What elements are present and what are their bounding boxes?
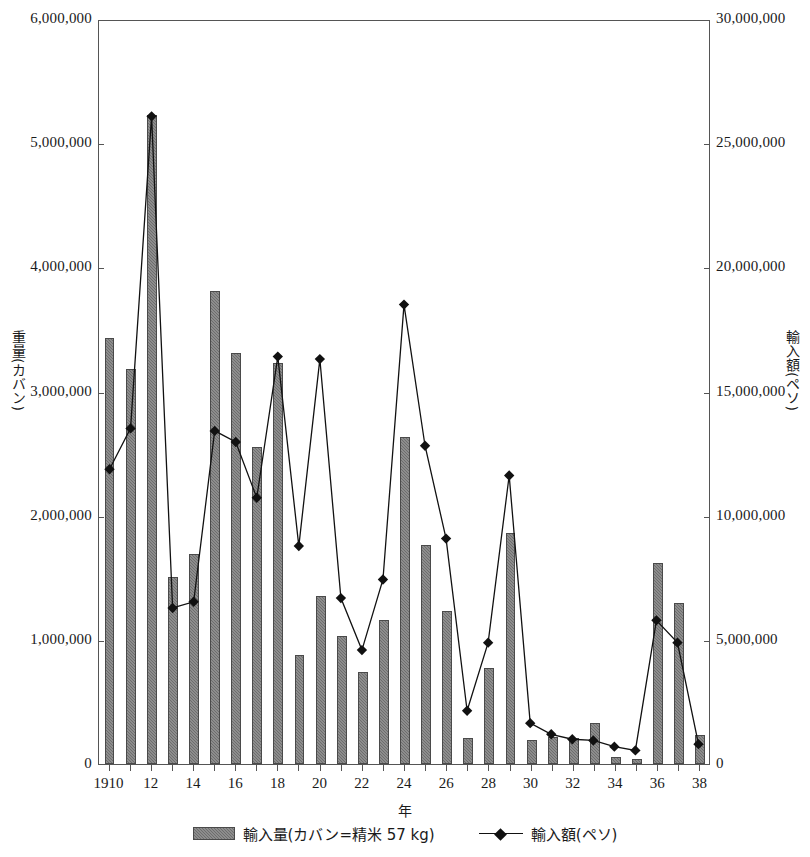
y-axis-tickmark [704,517,710,518]
x-axis-tickmark [531,765,532,771]
marker-15 [210,426,220,436]
y-axis-left-tick-label: 0 [84,755,92,772]
x-axis-tickmark [636,765,637,771]
plot-area [98,20,710,765]
marker-16 [231,437,241,447]
x-axis-tick-label: 16 [228,775,243,792]
y-axis-right-tick-label: 25,000,000 [716,134,786,151]
y-axis-left-tick-label: 1,000,000 [30,631,92,648]
legend-item-import-value: 輸入額(ペソ) [479,823,618,844]
import-value-line [110,116,699,750]
x-axis-tickmark [657,765,658,771]
x-axis-tickmark [277,765,278,771]
y-axis-tickmark [98,144,104,145]
line-series [99,21,709,764]
x-axis-tickmark [235,765,236,771]
y-axis-left-tick-label: 6,000,000 [30,10,92,27]
marker-32 [567,734,577,744]
y-axis-tickmark [704,268,710,269]
marker-35 [630,745,640,755]
x-axis-tickmark [699,765,700,771]
x-axis-tickmark [488,765,489,771]
x-axis-tick-label: 22 [354,775,369,792]
y-axis-right-tick-label: 20,000,000 [716,258,786,275]
marker-33 [588,735,598,745]
x-axis-tickmark [594,765,595,771]
x-axis-tickmark [615,765,616,771]
legend-label-import-volume: 輸入量(カバン=精米 57 kg) [243,823,435,844]
marker-22 [357,645,367,655]
y-axis-left-tick-label: 4,000,000 [30,258,92,275]
legend-label-import-value: 輸入額(ペソ) [531,823,618,844]
marker-18 [273,351,283,361]
y-axis-right-tick-label: 5,000,000 [716,631,778,648]
marker-12 [146,111,156,121]
x-axis-tickmark [151,765,152,771]
chart-legend: 輸入量(カバン=精米 57 kg) 輸入額(ペソ) [0,823,810,844]
x-axis-tickmark [362,765,363,771]
x-axis-tickmark [298,765,299,771]
x-axis-tick-label: 34 [608,775,623,792]
x-axis-tick-label: 20 [312,775,327,792]
marker-23 [378,574,388,584]
y-axis-right-tick-label: 15,000,000 [716,383,786,400]
marker-1910 [104,464,114,474]
x-axis-tick-label: 24 [397,775,412,792]
marker-20 [315,354,325,364]
marker-34 [609,741,619,751]
marker-38 [693,739,703,749]
series-layer [99,21,709,764]
x-axis-tickmark [510,765,511,771]
x-axis-tickmark [193,765,194,771]
y-axis-right-tick-label: 30,000,000 [716,10,786,27]
y-axis-tickmark [704,641,710,642]
x-axis-tickmark [383,765,384,771]
x-axis-tickmark [109,765,110,771]
x-axis-tick-label: 18 [270,775,285,792]
x-axis-tick-label: 12 [143,775,158,792]
marker-24 [399,299,409,309]
marker-29 [504,470,514,480]
x-axis-tickmark [172,765,173,771]
marker-21 [336,593,346,603]
x-axis-tick-label: 32 [565,775,580,792]
legend-item-import-volume: 輸入量(カバン=精米 57 kg) [193,823,435,844]
y-axis-tickmark [98,268,104,269]
y-axis-left-tick-label: 2,000,000 [30,507,92,524]
y-axis-left-title: 重量(カバン) [8,330,28,411]
marker-28 [483,637,493,647]
x-axis-tickmark [320,765,321,771]
x-axis-tickmark [678,765,679,771]
bar-swatch-icon [193,827,235,840]
y-axis-left-tick-label: 3,000,000 [30,383,92,400]
x-axis-tickmark [467,765,468,771]
marker-25 [420,441,430,451]
marker-13 [167,603,177,613]
marker-17 [252,493,262,503]
y-axis-tickmark [98,641,104,642]
x-axis-tickmark [214,765,215,771]
x-axis-tick-label: 1910 [94,775,124,792]
x-axis-tick-label: 14 [185,775,200,792]
chart-figure: 重量(カバン) 輸入額(ペソ) 001,000,0005,000,0002,00… [0,0,810,857]
y-axis-right-tick-label: 0 [716,755,724,772]
x-axis-tickmark [130,765,131,771]
marker-11 [125,423,135,433]
x-axis-title: 年 [0,800,810,820]
y-axis-tickmark [704,144,710,145]
x-axis-tick-label: 30 [523,775,538,792]
marker-31 [546,729,556,739]
x-axis-tickmark [425,765,426,771]
y-axis-tickmark [98,393,104,394]
y-axis-tickmark [98,517,104,518]
marker-14 [188,597,198,607]
line-swatch-icon [479,828,523,840]
x-axis-tick-label: 28 [481,775,496,792]
y-axis-left-tick-label: 5,000,000 [30,134,92,151]
x-axis-tickmark [404,765,405,771]
y-axis-right-tick-label: 10,000,000 [716,507,786,524]
x-axis-tick-label: 26 [439,775,454,792]
y-axis-tickmark [704,393,710,394]
x-axis-tickmark [256,765,257,771]
marker-27 [462,706,472,716]
